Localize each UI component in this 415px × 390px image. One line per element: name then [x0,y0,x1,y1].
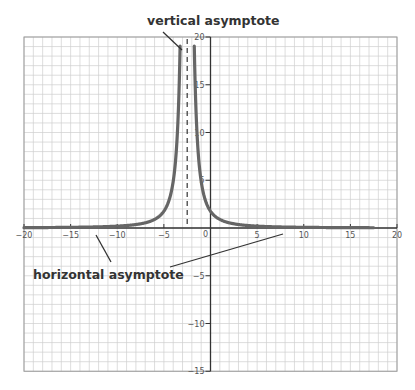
curve-right-branch [194,46,373,228]
vertical-asymptote-label: vertical asymptote [147,13,280,28]
chart: −20−15−10−5051015202015105−5−10−15 verti… [0,0,415,390]
curve-left-branch [24,46,180,228]
x-tick-label: 15 [345,231,355,240]
y-tick-label: −10 [188,320,205,329]
x-tick-label: 20 [392,231,402,240]
x-tick-label: −15 [62,231,79,240]
y-tick-label: 20 [194,33,204,42]
x-tick-label: 0 [203,230,208,239]
y-tick-label: −5 [193,272,205,281]
horizontal-asymptote-leader-right [170,234,283,267]
y-tick-label: −15 [188,367,205,376]
x-tick-label: −5 [158,231,170,240]
horizontal-asymptote-label: horizontal asymptote [33,267,184,282]
x-tick-label: 5 [255,231,260,240]
x-tick-label: −10 [109,231,126,240]
x-tick-label: −20 [16,231,33,240]
x-tick-label: 10 [299,231,309,240]
vertical-asymptote-leader [163,32,182,50]
